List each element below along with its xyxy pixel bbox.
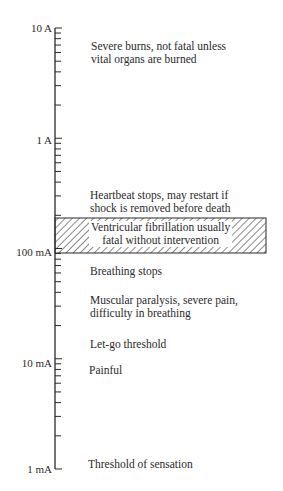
effect-breathing-stops: Breathing stops xyxy=(90,265,162,278)
effect-paralysis-line2: difficulty in breathing xyxy=(90,307,238,320)
axis-label-10ma: 10 mA xyxy=(2,357,52,369)
effect-severe-burns-line2: vital organs are burned xyxy=(91,53,226,66)
axis-ticks xyxy=(55,28,62,469)
effect-severe-burns: Severe burns, not fatal unless vital org… xyxy=(91,40,226,66)
effect-heartbeat-stops-line1: Heartbeat stops, may restart if xyxy=(90,189,231,202)
effect-threshold-of-sensation: Threshold of sensation xyxy=(88,458,193,471)
axis-label-1a: 1 A xyxy=(2,134,52,146)
axis-label-100ma: 100 mA xyxy=(2,246,52,258)
effect-ventricular-fibrillation: Ventricular fibrillation usually fatal w… xyxy=(89,221,232,247)
effect-severe-burns-line1: Severe burns, not fatal unless xyxy=(91,40,226,53)
axis-label-10a: 10 A xyxy=(2,22,52,34)
axis-label-1ma: 1 mA xyxy=(2,463,52,475)
effect-vfib-line2: fatal without intervention xyxy=(91,234,230,247)
effect-vfib-line1: Ventricular fibrillation usually xyxy=(91,221,230,234)
effect-heartbeat-stops-line2: shock is removed before death xyxy=(90,202,231,215)
effect-let-go-threshold: Let-go threshold xyxy=(90,338,166,351)
effect-painful: Painful xyxy=(89,364,122,377)
effect-muscular-paralysis: Muscular paralysis, severe pain, difficu… xyxy=(90,294,238,320)
electric-shock-effects-diagram: 10 A 1 A 100 mA 10 mA 1 mA Severe burns,… xyxy=(0,0,283,491)
effect-paralysis-line1: Muscular paralysis, severe pain, xyxy=(90,294,238,307)
effect-heartbeat-stops: Heartbeat stops, may restart if shock is… xyxy=(90,189,231,215)
